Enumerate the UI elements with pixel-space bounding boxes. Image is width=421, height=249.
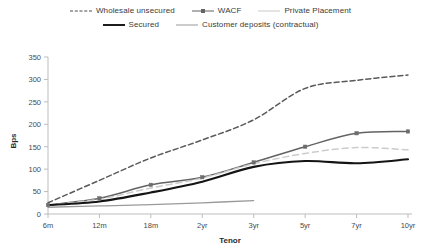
x-tick-label: 3yr (249, 221, 260, 230)
x-tick-label: 10yr (401, 221, 416, 230)
x-axis-ticks: 6m12m18m2yr3yr5yr7yr10yr (43, 214, 416, 230)
y-tick-label: 0 (37, 210, 41, 219)
series-wholesale-unsecured (48, 75, 408, 203)
x-tick-label: 18m (144, 221, 159, 230)
y-axis-ticks: 050100150200250300350 (28, 53, 48, 219)
x-tick-label: 7yr (351, 221, 362, 230)
chart-container: Wholesale unsecured WACF Private Placeme… (0, 0, 421, 249)
data-point-marker (406, 130, 409, 133)
y-tick-label: 350 (28, 53, 41, 62)
y-tick-label: 100 (28, 165, 41, 174)
data-point-marker (98, 197, 101, 200)
series-private-placement (48, 148, 408, 206)
y-tick-label: 150 (28, 143, 41, 152)
data-point-marker (252, 161, 255, 164)
y-axis-title: Bps (9, 133, 18, 149)
x-tick-label: 6m (43, 221, 53, 230)
x-tick-label: 2yr (197, 221, 208, 230)
series-wacf (48, 131, 408, 205)
data-point-marker (201, 176, 204, 179)
plot-svg: 050100150200250300350 6m12m18m2yr3yr5yr7… (0, 0, 421, 249)
x-axis-title: Tenor (219, 236, 241, 245)
marker-layer (46, 130, 409, 207)
series-layer (48, 75, 408, 207)
data-point-marker (303, 145, 306, 148)
x-tick-label: 5yr (300, 221, 311, 230)
plot-area: 050100150200250300350 6m12m18m2yr3yr5yr7… (0, 0, 421, 249)
x-tick-label: 12m (92, 221, 107, 230)
data-point-marker (355, 132, 358, 135)
y-tick-label: 50 (33, 187, 41, 196)
data-point-marker (149, 183, 152, 186)
y-tick-label: 250 (28, 98, 41, 107)
y-tick-label: 300 (28, 75, 41, 84)
data-point-marker (46, 203, 49, 206)
y-tick-label: 200 (28, 120, 41, 129)
